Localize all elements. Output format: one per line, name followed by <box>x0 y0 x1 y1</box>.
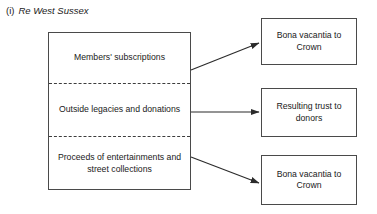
outcome-box-resulting-trust-donors: Resulting trust to donors <box>261 88 357 137</box>
outcome-box-label: Bona vacantia to Crown <box>267 30 351 53</box>
caption-title: Re West Sussex <box>18 5 88 16</box>
caption-marker: (i) <box>6 5 14 16</box>
figure-re-west-sussex: (i)Re West Sussex Members' subscriptions… <box>0 0 377 214</box>
source-section-members-subscriptions: Members' subscriptions <box>49 33 190 83</box>
arrow-proceeds-to-bona-vacantia <box>191 157 259 183</box>
arrow-members-to-bona-vacantia <box>191 43 259 70</box>
source-section-label: Proceeds of entertainments and street co… <box>55 152 184 175</box>
outcome-box-label: Resulting trust to donors <box>267 101 351 124</box>
source-section-label: Outside legacies and donations <box>59 104 180 116</box>
outcome-box-bona-vacantia-crown-top: Bona vacantia to Crown <box>261 18 357 65</box>
figure-caption: (i)Re West Sussex <box>6 5 89 17</box>
fund-sources-box: Members' subscriptions Outside legacies … <box>48 32 191 190</box>
outcome-box-label: Bona vacantia to Crown <box>267 169 351 192</box>
source-section-outside-legacies-donations: Outside legacies and donations <box>49 83 190 136</box>
source-section-proceeds-entertainments: Proceeds of entertainments and street co… <box>49 136 190 191</box>
outcome-box-bona-vacantia-crown-bottom: Bona vacantia to Crown <box>261 155 357 205</box>
source-section-label: Members' subscriptions <box>74 52 165 64</box>
